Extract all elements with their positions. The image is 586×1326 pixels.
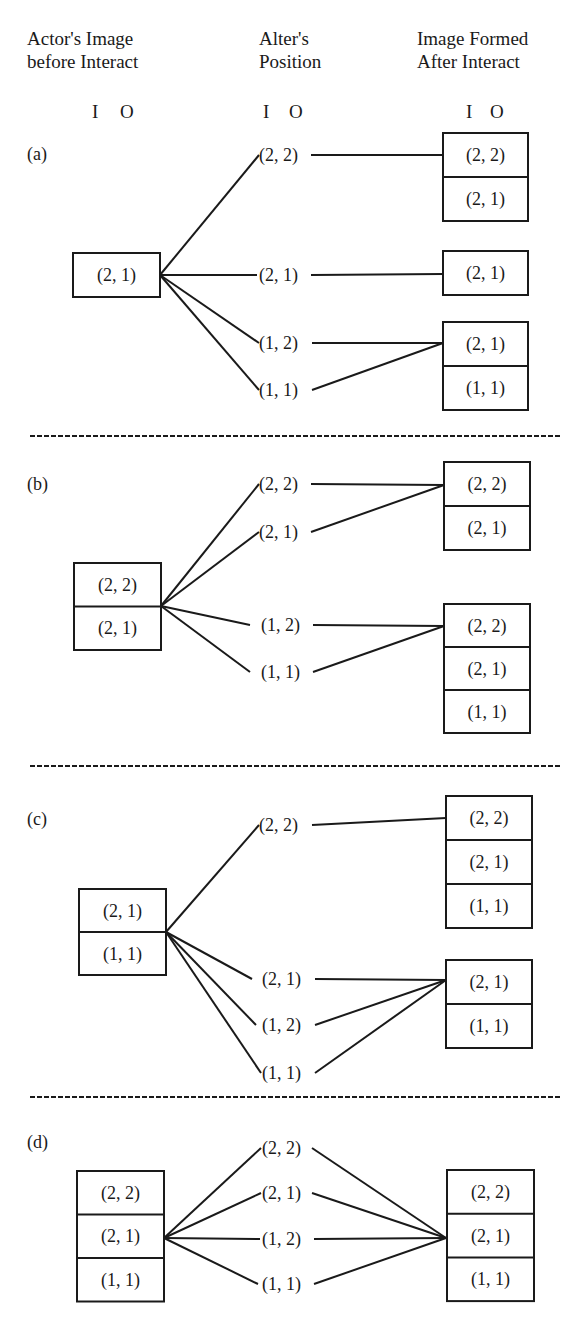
alter-position-label: (2, 2) xyxy=(262,1138,301,1159)
image-cell: (1, 1) xyxy=(466,378,505,399)
edge-actor-to-alter xyxy=(166,932,261,1073)
image-cell: (2, 1) xyxy=(466,189,505,210)
actor-image-box: (2, 2)(2, 1) xyxy=(74,563,161,650)
image-cell: (1, 1) xyxy=(468,702,507,723)
io-label-alter-input: I xyxy=(263,101,269,122)
formed-image-box: (2, 1)(1, 1) xyxy=(446,960,532,1048)
edge-alter-to-result xyxy=(312,1148,446,1238)
edge-alter-to-result xyxy=(312,1193,446,1238)
image-cell: (2, 2) xyxy=(468,616,507,637)
alter-position-label: (1, 2) xyxy=(262,1229,301,1250)
header-formed-line2: After Interact xyxy=(417,51,521,72)
column-header-formed: Image Formed After Interact I O xyxy=(417,28,529,122)
edge-actor-to-alter xyxy=(161,484,259,606)
image-cell: (2, 1) xyxy=(470,972,509,993)
io-label-formed-output: O xyxy=(490,101,504,122)
header-actor-line2: before Interact xyxy=(27,51,139,72)
image-cell: (2, 2) xyxy=(470,808,509,829)
formed-image-box: (2, 2)(2, 1) xyxy=(443,133,528,221)
alter-position-label: (1, 2) xyxy=(262,1015,301,1036)
edge-actor-to-alter xyxy=(164,1238,260,1239)
image-cell: (2, 2) xyxy=(471,1182,510,1203)
io-label-formed-input: I xyxy=(466,101,472,122)
edge-actor-to-alter xyxy=(166,825,259,932)
image-cell: (2, 1) xyxy=(466,263,505,284)
interaction-image-diagram: Actor's Image before Interact I O Alter'… xyxy=(0,0,586,1326)
section-label: (c) xyxy=(27,809,47,830)
column-header-actor: Actor's Image before Interact I O xyxy=(27,28,139,122)
image-cell: (1, 1) xyxy=(470,896,509,917)
section-label: (a) xyxy=(27,144,47,165)
header-alter-line1: Alter's xyxy=(259,28,309,49)
section-c: (c)(2, 2)(2, 1)(1, 2)(1, 1)(2, 1)(1, 1)(… xyxy=(27,796,532,1084)
image-cell: (2, 2) xyxy=(101,1183,140,1204)
edge-actor-to-alter xyxy=(164,1193,261,1238)
section-a: (a)(2, 2)(2, 1)(1, 2)(1, 1)(2, 1)(2, 2)(… xyxy=(27,133,528,410)
actor-image-box: (2, 1) xyxy=(73,253,160,297)
edge-alter-to-result xyxy=(311,484,444,485)
alter-position-label: (1, 2) xyxy=(259,333,298,354)
edge-actor-to-alter xyxy=(161,532,259,606)
header-actor-line1: Actor's Image xyxy=(27,28,133,49)
formed-image-box: (2, 2)(2, 1) xyxy=(444,462,530,550)
edge-alter-to-result xyxy=(311,274,443,275)
image-cell: (2, 1) xyxy=(470,852,509,873)
formed-image-box: (2, 1)(1, 1) xyxy=(443,322,528,410)
image-cell: (2, 1) xyxy=(468,518,507,539)
edge-actor-to-alter xyxy=(164,1238,258,1284)
edge-alter-to-result xyxy=(314,1238,446,1284)
image-cell: (2, 2) xyxy=(468,474,507,495)
image-cell: (2, 1) xyxy=(466,334,505,355)
formed-image-box: (2, 2)(2, 1)(1, 1) xyxy=(444,604,530,733)
header-alter-line2: Position xyxy=(259,51,322,72)
formed-image-box: (2, 2)(2, 1)(1, 1) xyxy=(447,1170,534,1301)
image-cell: (2, 2) xyxy=(98,575,137,596)
image-cell: (1, 1) xyxy=(101,1270,140,1291)
alter-position-label: (2, 1) xyxy=(259,265,298,286)
alter-position-label: (2, 1) xyxy=(259,522,298,543)
image-cell: (1, 1) xyxy=(471,1269,510,1290)
edge-alter-to-result xyxy=(311,485,444,532)
io-label-actor-output: O xyxy=(120,101,134,122)
image-cell: (2, 1) xyxy=(97,265,136,286)
image-cell: (1, 1) xyxy=(470,1016,509,1037)
edge-actor-to-alter xyxy=(166,932,256,1025)
section-label: (b) xyxy=(27,474,48,495)
edge-actor-to-alter xyxy=(160,155,259,275)
alter-position-label: (1, 1) xyxy=(259,380,298,401)
alter-position-label: (1, 2) xyxy=(261,615,300,636)
alter-position-label: (1, 1) xyxy=(261,662,300,683)
section-b: (b)(2, 2)(2, 1)(1, 2)(1, 1)(2, 2)(2, 1)(… xyxy=(27,462,530,733)
edge-alter-to-result xyxy=(312,343,443,390)
header-formed-line1: Image Formed xyxy=(417,28,529,49)
io-label-alter-output: O xyxy=(289,101,303,122)
alter-position-label: (2, 1) xyxy=(262,969,301,990)
formed-image-box: (2, 2)(2, 1)(1, 1) xyxy=(446,796,532,928)
edge-alter-to-result xyxy=(315,980,446,1073)
alter-position-label: (2, 2) xyxy=(259,815,298,836)
column-header-alter: Alter's Position I O xyxy=(259,28,322,122)
io-label-actor-input: I xyxy=(92,101,98,122)
edge-alter-to-result xyxy=(314,1238,446,1239)
image-cell: (1, 1) xyxy=(103,944,142,965)
edge-alter-to-result xyxy=(313,625,444,626)
image-cell: (2, 1) xyxy=(98,618,137,639)
formed-image-box: (2, 1) xyxy=(443,251,528,295)
diagram-sections: (a)(2, 2)(2, 1)(1, 2)(1, 1)(2, 1)(2, 2)(… xyxy=(27,133,534,1302)
alter-position-label: (1, 1) xyxy=(262,1063,301,1084)
image-cell: (2, 2) xyxy=(466,145,505,166)
image-cell: (2, 1) xyxy=(468,659,507,680)
alter-position-label: (1, 1) xyxy=(262,1274,301,1295)
edge-actor-to-alter xyxy=(164,1148,261,1238)
image-cell: (2, 1) xyxy=(103,901,142,922)
image-cell: (2, 1) xyxy=(101,1226,140,1247)
alter-position-label: (2, 2) xyxy=(259,474,298,495)
section-label: (d) xyxy=(27,1132,48,1153)
image-cell: (2, 1) xyxy=(471,1226,510,1247)
edge-actor-to-alter xyxy=(166,932,252,979)
edge-alter-to-result xyxy=(315,980,446,1025)
alter-position-label: (2, 2) xyxy=(259,145,298,166)
section-d: (d)(2, 2)(2, 1)(1, 2)(1, 1)(2, 2)(2, 1)(… xyxy=(27,1132,534,1302)
actor-image-box: (2, 1)(1, 1) xyxy=(79,889,166,975)
edge-alter-to-result xyxy=(315,979,446,980)
